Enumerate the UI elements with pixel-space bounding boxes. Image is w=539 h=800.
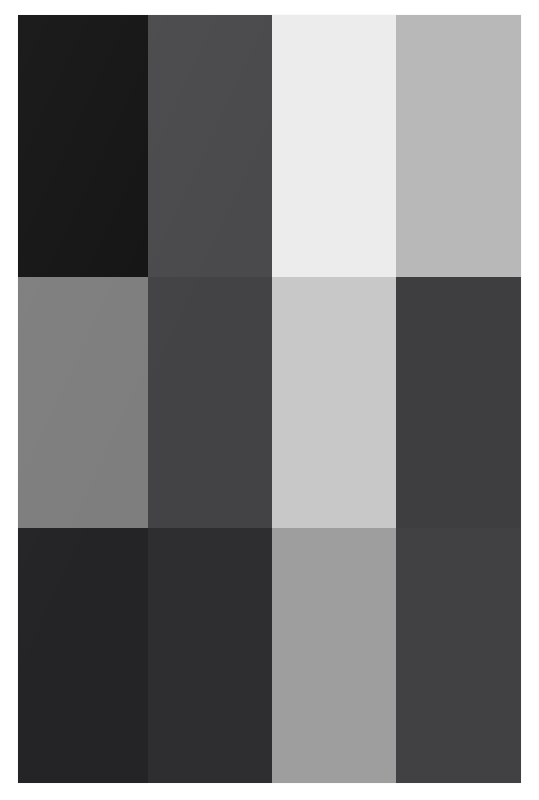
swatch-r3-c1 <box>18 528 148 783</box>
swatch-r2-c4 <box>396 277 521 528</box>
swatch-r2-c1 <box>18 277 148 528</box>
swatch-r1-c3 <box>272 15 396 277</box>
swatch-r1-c1 <box>18 15 148 277</box>
swatch-r3-c2 <box>148 528 272 783</box>
swatch-canvas <box>0 0 539 800</box>
swatch-r3-c3 <box>272 528 396 783</box>
swatch-r2-c3 <box>272 277 396 528</box>
swatch-r1-c2 <box>148 15 272 277</box>
swatch-grid <box>18 15 521 783</box>
swatch-r1-c4 <box>396 15 521 277</box>
swatch-r3-c4 <box>396 528 521 783</box>
swatch-r2-c2 <box>148 277 272 528</box>
